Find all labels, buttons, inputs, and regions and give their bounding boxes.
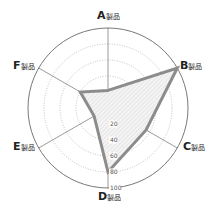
category-label-e: E製品 [13, 142, 35, 153]
category-label-a: A製品 [97, 11, 120, 22]
r-tick-100: 100 [110, 185, 121, 191]
radar-chart: A製品 B製品 C製品 D製品 E製品 F製品 20 40 60 80 100 [0, 0, 216, 216]
category-label-b: B製品 [180, 61, 202, 72]
r-tick-20: 20 [110, 121, 118, 127]
r-tick-40: 40 [110, 137, 118, 143]
category-label-f: F製品 [13, 61, 35, 72]
radar-plot-area [0, 0, 216, 216]
r-tick-80: 80 [110, 169, 118, 175]
category-label-d: D製品 [98, 192, 121, 203]
r-tick-60: 60 [110, 153, 118, 159]
data-series-polygon [80, 68, 177, 172]
category-label-c: C製品 [183, 142, 205, 153]
